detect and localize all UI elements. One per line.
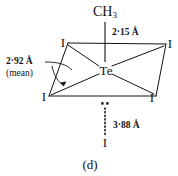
apex-methyl-label: CH3: [93, 5, 117, 20]
equatorial-bond-length-qualifier: (mean): [6, 68, 33, 79]
atom-i-top-left: I: [61, 36, 65, 49]
axial-contact-length-label: 3·88 Å: [113, 120, 140, 131]
structure-bond-lines: [0, 0, 178, 176]
bond-te-i-bottom-right: [112, 74, 154, 94]
atom-i-bottom-right: I: [150, 91, 154, 104]
equatorial-bond-length-label: 2·92 Å: [6, 56, 33, 67]
atom-i-bottom-left: I: [42, 90, 46, 103]
lone-pair-dots: [101, 102, 108, 104]
bond-edge-left: [49, 43, 68, 96]
apex-bond-length-label: 2·15 Å: [112, 27, 139, 38]
bond-edge-right: [156, 44, 166, 96]
bond-te-i-top-right: [112, 46, 164, 66]
bond-te-i-top-left: [68, 45, 99, 66]
bond-edge-top: [68, 43, 166, 44]
apex-methyl-subscript: 3: [112, 10, 117, 20]
chemical-structure-figure: CH3 2·15 Å 2·92 Å (mean) 3·88 Å Te I I I…: [0, 0, 178, 176]
atom-i-top-right: I: [168, 37, 172, 50]
figure-caption: (d): [82, 158, 97, 171]
bond-te-i-bottom-left: [51, 74, 99, 95]
atom-i-axial-contact: I: [103, 136, 107, 149]
apex-methyl-element: CH: [93, 4, 112, 19]
atom-te-center: Te: [100, 64, 113, 77]
